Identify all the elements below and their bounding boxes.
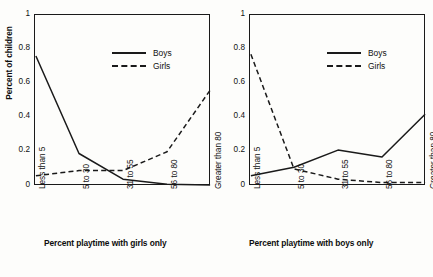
x-tick-label: 31 to 55 — [341, 159, 350, 189]
x-tick-label: 5 to 30 — [82, 164, 91, 189]
series-canvas-boys — [250, 15, 426, 186]
x-tick-label: 56 to 80 — [170, 159, 179, 189]
y-tick-label: 0.4 — [8, 112, 30, 120]
x-tick-label: 5 to 30 — [297, 164, 306, 189]
x-tick-label: 31 to 55 — [126, 159, 135, 189]
legend-label: Girls — [368, 61, 385, 71]
plot-area-boys — [249, 14, 425, 185]
y-tick-label: 1 — [8, 10, 30, 18]
y-tick-label: 0.8 — [223, 44, 245, 52]
y-tick-label: 0 — [8, 181, 30, 189]
legend-item-boys[interactable]: Boys — [112, 46, 172, 59]
legend-boys: BoysGirls — [327, 46, 387, 72]
y-tick-label: 0 — [223, 181, 245, 189]
chart-panel-boys: 00.20.40.60.81 BoysGirls Less than 55 to… — [216, 0, 433, 277]
series-line-girls — [251, 54, 425, 182]
x-tick-label: Less than 5 — [38, 147, 47, 189]
legend-swatch-boys-icon — [327, 52, 361, 54]
series-line-girls — [36, 90, 210, 176]
legend-label: Girls — [153, 61, 170, 71]
y-tick-label: 0.8 — [8, 44, 30, 52]
x-tick-label: 56 to 80 — [385, 159, 394, 189]
x-axis-title: Percent playtime with girls only — [44, 238, 166, 248]
y-tick-label: 1 — [223, 10, 245, 18]
x-tick-label: Greater than 80 — [429, 132, 433, 189]
chart-panel-girls: Percent of children 00.20.40.60.81 BoysG… — [0, 0, 216, 277]
legend-swatch-girls-icon — [112, 65, 146, 67]
figure-root: Percent of children 00.20.40.60.81 BoysG… — [0, 0, 433, 277]
series-canvas-girls — [35, 15, 211, 186]
legend-swatch-girls-icon — [327, 65, 361, 67]
y-axis-title: Percent of children — [4, 8, 14, 118]
legend-item-girls[interactable]: Girls — [327, 59, 387, 72]
legend-swatch-boys-icon — [112, 52, 146, 54]
y-tick-label: 0.2 — [223, 146, 245, 154]
legend-item-boys[interactable]: Boys — [327, 46, 387, 59]
legend-item-girls[interactable]: Girls — [112, 59, 172, 72]
y-tick-label: 0.4 — [223, 112, 245, 120]
y-tick-label: 0.6 — [8, 78, 30, 86]
x-tick-label: Less than 5 — [253, 147, 262, 189]
x-axis-title: Percent playtime with boys only — [249, 238, 373, 248]
plot-area-girls — [34, 14, 210, 185]
y-tick-label: 0.6 — [223, 78, 245, 86]
legend-label: Boys — [153, 48, 172, 58]
legend-girls: BoysGirls — [112, 46, 172, 72]
y-tick-label: 0.2 — [8, 146, 30, 154]
series-line-boys — [36, 56, 210, 185]
legend-label: Boys — [368, 48, 387, 58]
